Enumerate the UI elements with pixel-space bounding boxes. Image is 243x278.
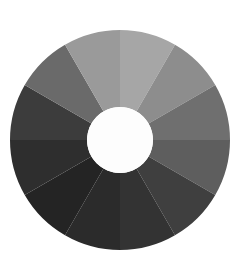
wheel-center-hub bbox=[87, 107, 153, 173]
color-wheel-svg bbox=[0, 0, 243, 278]
color-wheel-figure bbox=[0, 0, 243, 278]
